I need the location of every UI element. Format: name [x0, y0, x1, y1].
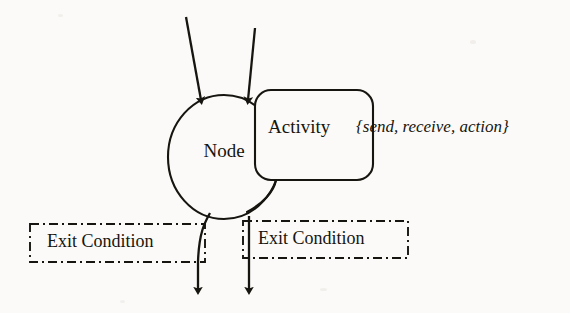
node-activity-connector: [247, 180, 276, 212]
exit-condition-left-label: Exit Condition: [47, 231, 154, 252]
paper-speck: [470, 40, 476, 44]
diagram-svg: [0, 0, 570, 313]
node-label: Node: [186, 140, 262, 162]
incoming-transition-left-arrow[interactable]: [186, 17, 201, 100]
paper-speck: [120, 300, 125, 303]
paper-speck: [320, 288, 327, 291]
activity-kinds-annotation: {send, receive, action}: [356, 117, 509, 137]
paper-speck: [58, 14, 63, 17]
activity-label: Activity: [268, 116, 330, 138]
incoming-transition-right-arrow[interactable]: [248, 28, 255, 100]
diagram-canvas: Node Activity {send, receive, action} Ex…: [0, 0, 570, 313]
exit-condition-right-label: Exit Condition: [258, 228, 365, 249]
